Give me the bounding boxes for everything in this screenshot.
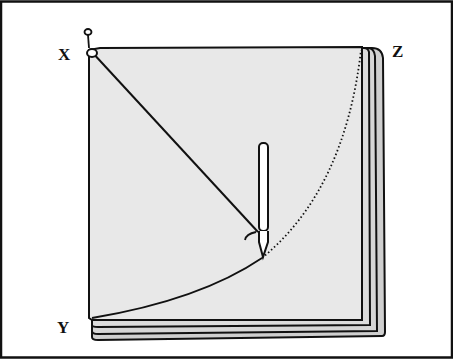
- pin-shaft: [88, 35, 89, 48]
- label-x: X: [58, 45, 70, 65]
- label-z: Z: [392, 42, 403, 62]
- pin-loop: [87, 49, 97, 57]
- diagram-canvas: X Z Y: [0, 0, 453, 360]
- pin-head-icon: [85, 29, 92, 35]
- pencil-body-icon: [259, 143, 268, 231]
- label-y: Y: [57, 318, 69, 338]
